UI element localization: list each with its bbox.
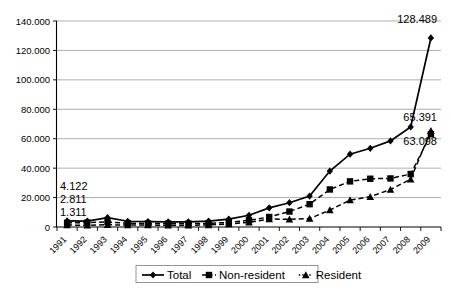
x-tick-label: 1998 xyxy=(189,234,210,255)
x-tick-label: 2006 xyxy=(350,234,371,255)
series-line-non-resident xyxy=(67,134,431,223)
x-tick-label: 1997 xyxy=(169,234,190,255)
chart-canvas: 140.000120.000100.00080.00060.00040.0002… xyxy=(0,0,451,294)
data-point-non-resident xyxy=(387,175,393,181)
data-point-resident xyxy=(427,127,435,134)
x-tick-label: 2007 xyxy=(371,234,392,255)
series-markers xyxy=(63,34,434,228)
x-tick-label: 1996 xyxy=(148,234,169,255)
data-annotation: 2.811 xyxy=(60,193,87,205)
x-tick-label: 1993 xyxy=(88,234,109,255)
legend-label: Resident xyxy=(316,269,362,281)
data-annotations: 4.1222.8111.311128.48965.39163.098 xyxy=(60,13,437,218)
x-tick-label: 2005 xyxy=(330,234,351,255)
data-point-non-resident xyxy=(286,208,292,214)
x-tick-label: 2001 xyxy=(249,234,270,255)
data-annotation: 1.311 xyxy=(60,206,87,218)
y-tick-label: 100.000 xyxy=(16,74,50,85)
data-point-resident xyxy=(387,186,395,193)
x-tick-label: 2003 xyxy=(290,234,311,255)
y-tick-label: 60.000 xyxy=(21,133,50,144)
data-point-total xyxy=(428,34,434,41)
series-line-resident xyxy=(67,131,431,225)
data-point-total xyxy=(266,204,272,211)
x-tick-label: 1995 xyxy=(128,234,149,255)
y-tick-label: 140.000 xyxy=(16,16,50,27)
y-tick-label: 40.000 xyxy=(21,163,50,174)
data-point-non-resident xyxy=(367,176,373,182)
x-tick-label: 1999 xyxy=(209,234,230,255)
y-tick-label: 20.000 xyxy=(21,192,50,203)
legend-label: Non-resident xyxy=(219,269,286,281)
series-lines xyxy=(67,38,431,225)
gridlines xyxy=(57,21,441,198)
y-tick-label: 80.000 xyxy=(21,104,50,115)
y-tick-label: 0 xyxy=(45,222,50,233)
data-point-total xyxy=(367,145,373,152)
data-annotation: 63.098 xyxy=(403,135,437,147)
legend-label: Total xyxy=(167,269,191,281)
data-point-non-resident xyxy=(306,201,312,207)
data-annotation: 4.122 xyxy=(60,180,88,192)
data-point-non-resident xyxy=(327,186,333,192)
x-axis-tick-marks xyxy=(57,227,441,231)
data-point-non-resident xyxy=(347,178,353,184)
x-tick-label: 2009 xyxy=(411,234,432,255)
x-tick-label: 2000 xyxy=(229,234,250,255)
data-point-total xyxy=(286,199,292,206)
x-tick-label: 2004 xyxy=(310,234,331,255)
x-tick-label: 2008 xyxy=(391,234,412,255)
data-annotation: 128.489 xyxy=(397,13,437,25)
y-axis-tick-labels: 140.000120.000100.00080.00060.00040.0002… xyxy=(16,16,50,233)
x-tick-label: 1992 xyxy=(67,234,88,255)
x-tick-label: 1994 xyxy=(108,234,129,255)
x-tick-label: 2002 xyxy=(270,234,291,255)
line-chart: 140.000120.000100.00080.00060.00040.0002… xyxy=(0,0,451,294)
y-tick-label: 120.000 xyxy=(16,45,50,56)
chart-legend: TotalNon-residentResident xyxy=(136,266,362,283)
x-axis-tick-labels: 1991199219931994199519961997199819992000… xyxy=(47,234,432,255)
legend-marker xyxy=(206,272,212,278)
x-tick-label: 1991 xyxy=(47,234,68,255)
data-point-resident xyxy=(326,206,334,213)
data-annotation: 65.391 xyxy=(403,111,437,123)
